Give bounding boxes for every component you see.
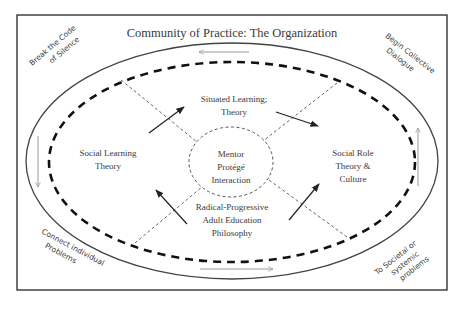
node-social-learning: Social Learning Theory — [79, 148, 137, 171]
node-top-line-1: Situated Learning; — [201, 94, 268, 104]
node-right-line-2: Theory & — [335, 161, 370, 171]
node-radical-progressive: Radical-Progressive Adult Education Phil… — [196, 202, 268, 238]
node-situated-learning: Situated Learning; Theory — [201, 94, 268, 117]
arrow-left-to-top — [149, 107, 184, 133]
node-right-line-1: Social Role — [332, 148, 374, 158]
node-bottom-line-1: Radical-Progressive — [196, 202, 268, 212]
node-left-line-1: Social Learning — [79, 148, 137, 158]
node-social-role: Social Role Theory & Culture — [332, 148, 374, 184]
node-bottom-line-2: Adult Education — [202, 215, 262, 225]
node-top-line-2: Theory — [221, 107, 247, 117]
node-bottom-line-3: Philosophy — [212, 228, 253, 238]
corner-label-top-left: Break the Code of Silence — [27, 23, 85, 76]
node-center-mentor: Mentor Protégé Interaction — [212, 149, 251, 185]
outer-ellipse — [26, 43, 438, 279]
node-center-line-3: Interaction — [212, 175, 251, 185]
node-center-line-1: Mentor — [218, 149, 245, 159]
arrow-bottom-to-left — [156, 190, 187, 224]
node-right-line-3: Culture — [340, 174, 367, 184]
node-left-line-2: Theory — [95, 161, 121, 171]
arrow-right-from-bottom — [289, 184, 319, 220]
diagram-title: Community of Practice: The Organization — [127, 26, 338, 40]
node-center-line-2: Protégé — [217, 162, 245, 172]
corner-label-top-right: Begin Collective Dialogue — [377, 31, 437, 84]
diagram-canvas: Community of Practice: The Organization … — [0, 0, 463, 315]
corner-label-bottom-right: To Societal or systemic problems — [372, 238, 431, 293]
